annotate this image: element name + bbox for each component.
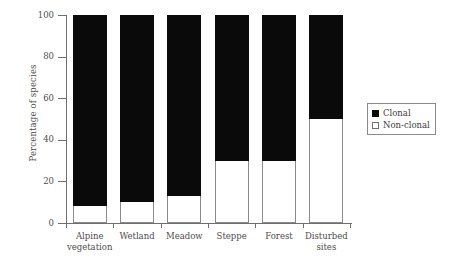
y-axis-tick-label: 80 [0,52,54,61]
hollow-square-icon [372,122,379,129]
plot-area [66,15,350,223]
y-axis-tick-label: 40 [0,135,54,144]
x-axis-line [58,223,352,224]
x-axis-tick [208,223,209,228]
x-axis-label-line: Disturbed [290,231,362,242]
legend-label: Non-clonal [383,121,430,130]
y-axis-tick [58,15,66,16]
bar-segment-non-clonal [262,161,296,223]
bar-group [120,15,154,223]
bar-segment-clonal [120,15,154,202]
x-axis-tick [161,223,162,228]
y-axis-tick-label: 20 [0,177,54,186]
x-axis-label: Disturbedsites [290,231,362,253]
legend-entry: Clonal [372,107,430,119]
x-axis-label-line: sites [290,242,362,253]
bar-segment-clonal [215,15,249,161]
bar-segment-non-clonal [215,161,249,223]
bar-segment-clonal [262,15,296,161]
chart-legend: ClonalNon-clonal [367,103,436,135]
x-axis-tick [303,223,304,228]
legend-entry: Non-clonal [372,119,430,131]
x-axis-label-line: vegetation [54,242,126,253]
bar-segment-clonal [167,15,201,196]
bar-group [309,15,343,223]
x-axis-tick [66,223,67,228]
x-axis-tick [350,223,351,228]
bar-segment-non-clonal [73,206,107,223]
stacked-bar-chart: Percentage of species 020406080100 Alpin… [0,0,449,267]
y-axis-tick-label: 60 [0,94,54,103]
y-axis-tick [58,181,66,182]
y-axis-tick [58,98,66,99]
y-axis-tick [58,223,66,224]
bar-group [73,15,107,223]
y-axis-tick-label: 0 [0,219,54,228]
bar-group [215,15,249,223]
filled-square-icon [372,110,379,117]
bar-segment-non-clonal [167,196,201,223]
bar-segment-clonal [309,15,343,119]
bar-group [262,15,296,223]
x-axis-tick [255,223,256,228]
y-axis-tick [58,140,66,141]
bar-segment-clonal [73,15,107,206]
legend-label: Clonal [383,109,411,118]
bar-group [167,15,201,223]
bar-segment-non-clonal [120,202,154,223]
x-axis-tick [113,223,114,228]
bar-segment-non-clonal [309,119,343,223]
y-axis-tick-label: 100 [0,11,54,20]
y-axis-tick [58,57,66,58]
